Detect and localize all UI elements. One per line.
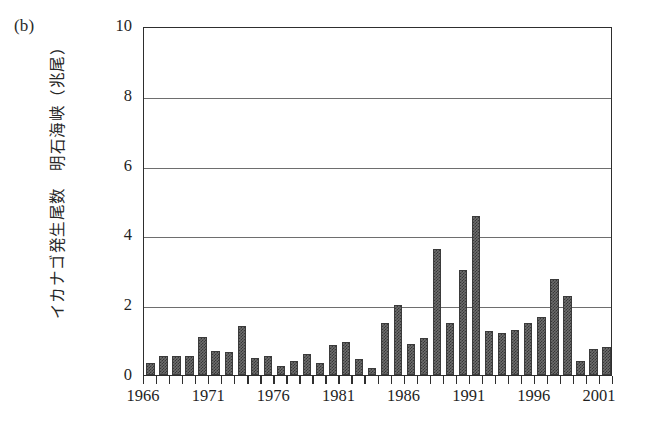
- bar-1985: [394, 305, 402, 375]
- x-tick: [286, 376, 287, 384]
- bar-1996: [537, 317, 545, 375]
- x-tick: [599, 376, 600, 384]
- x-tick: [156, 376, 157, 384]
- x-tick: [299, 376, 300, 384]
- x-tick: [247, 376, 248, 384]
- x-tick: [534, 376, 535, 384]
- y-tick-label-6: 6: [124, 158, 132, 175]
- x-tick: [221, 376, 222, 384]
- bar-1991: [472, 216, 480, 375]
- x-axis-ticks: [143, 376, 612, 386]
- bar-1987: [420, 338, 428, 375]
- x-tick: [273, 376, 274, 384]
- x-tick: [182, 376, 183, 384]
- x-tick: [391, 376, 392, 384]
- x-tick: [312, 376, 313, 384]
- x-tick-label-1986: 1986: [387, 386, 420, 406]
- bar-1973: [238, 326, 246, 375]
- y-tick-label-10: 10: [116, 18, 133, 35]
- x-tick-label-2001: 2001: [582, 386, 615, 406]
- bar-1994: [511, 330, 519, 375]
- y-axis-tick-labels: 0246810: [96, 0, 136, 431]
- bar-1986: [407, 344, 415, 375]
- x-tick-label-1991: 1991: [452, 386, 485, 406]
- x-tick: [560, 376, 561, 384]
- bar-1972: [225, 352, 233, 375]
- bar-1989: [446, 323, 454, 375]
- bar-2000: [589, 349, 597, 375]
- x-tick: [482, 376, 483, 384]
- bar-2001: [602, 347, 610, 375]
- y-tick-label-0: 0: [124, 367, 132, 384]
- x-tick: [325, 376, 326, 384]
- bar-1982: [355, 359, 363, 375]
- x-tick-label-1976: 1976: [257, 386, 290, 406]
- bar-1978: [303, 354, 311, 375]
- bar-1969: [185, 356, 193, 375]
- bar-1990: [459, 270, 467, 375]
- bar-1997: [550, 279, 558, 375]
- bar-1988: [433, 249, 441, 375]
- bar-1998: [563, 296, 571, 375]
- x-tick: [351, 376, 352, 384]
- bar-1977: [290, 361, 298, 375]
- x-tick: [208, 376, 209, 384]
- x-tick: [404, 376, 405, 384]
- y-tick-label-4: 4: [124, 227, 132, 244]
- bar-1967: [159, 356, 167, 375]
- bar-1993: [498, 333, 506, 375]
- y-tick-label-2: 2: [124, 297, 132, 314]
- x-tick: [456, 376, 457, 384]
- bar-1981: [342, 342, 350, 375]
- x-tick: [495, 376, 496, 384]
- x-tick-label-1971: 1971: [192, 386, 225, 406]
- x-tick-label-1966: 1966: [127, 386, 160, 406]
- bar-1974: [251, 358, 259, 375]
- x-tick: [521, 376, 522, 384]
- x-tick-label-1981: 1981: [322, 386, 355, 406]
- bar-1971: [211, 351, 219, 375]
- x-tick: [612, 376, 613, 384]
- x-tick-label-1996: 1996: [517, 386, 550, 406]
- bar-1975: [264, 356, 272, 375]
- x-tick: [430, 376, 431, 384]
- bar-1980: [329, 345, 337, 375]
- x-tick: [260, 376, 261, 384]
- figure-panel-b: (b) イカナゴ発生尾数 明石海峡（兆尾） 0246810 1966197119…: [0, 0, 660, 431]
- plot-area: [143, 27, 612, 376]
- x-tick: [195, 376, 196, 384]
- x-tick: [143, 376, 144, 384]
- x-tick: [364, 376, 365, 384]
- bar-1992: [485, 331, 493, 375]
- bar-series: [144, 28, 611, 375]
- x-tick: [547, 376, 548, 384]
- x-tick: [573, 376, 574, 384]
- bar-1995: [524, 323, 532, 375]
- panel-label: (b): [14, 16, 34, 36]
- bar-1966: [146, 363, 154, 375]
- x-tick: [169, 376, 170, 384]
- x-tick: [378, 376, 379, 384]
- bar-1983: [368, 368, 376, 375]
- x-tick: [338, 376, 339, 384]
- x-tick: [417, 376, 418, 384]
- bar-1999: [576, 361, 584, 375]
- x-tick: [443, 376, 444, 384]
- x-tick: [508, 376, 509, 384]
- bar-1976: [277, 366, 285, 375]
- bar-1968: [172, 356, 180, 375]
- bar-1970: [198, 337, 206, 375]
- x-tick: [586, 376, 587, 384]
- bar-1984: [381, 323, 389, 375]
- y-tick-label-8: 8: [124, 88, 132, 105]
- y-axis-title: イカナゴ発生尾数 明石海峡（兆尾）: [45, 9, 67, 349]
- x-axis-tick-labels: 19661971197619811986199119962001: [143, 386, 612, 416]
- x-tick: [469, 376, 470, 384]
- x-tick: [234, 376, 235, 384]
- bar-1979: [316, 363, 324, 375]
